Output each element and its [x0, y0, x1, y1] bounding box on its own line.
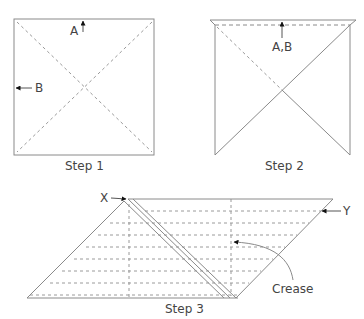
step1-caption: Step 1: [65, 159, 104, 173]
label-ab: A,B: [272, 40, 292, 54]
label-b: B: [35, 81, 43, 95]
label-x: X: [100, 191, 108, 205]
arrow-x-icon: [111, 198, 126, 199]
step2-left-corner: [210, 20, 215, 25]
label-a: A: [70, 24, 79, 38]
crease-pointer-icon: [234, 242, 293, 280]
step3-band-line-1: [124, 201, 224, 298]
step3-figure: X Y Crease Step 3: [27, 191, 351, 316]
label-crease: Crease: [272, 282, 313, 296]
step3-caption: Step 3: [165, 302, 204, 316]
step2-caption: Step 2: [265, 159, 304, 173]
step2-right-corner: [350, 20, 356, 25]
step2-solid-diagonal-2: [282, 90, 350, 155]
step2-dashed-diagonal: [217, 27, 282, 90]
folding-diagram: A B Step 1 A,B Step 2: [0, 0, 364, 319]
step2-figure: A,B Step 2: [210, 20, 356, 173]
label-y: Y: [342, 204, 351, 218]
step1-figure: A B Step 1: [14, 19, 154, 173]
